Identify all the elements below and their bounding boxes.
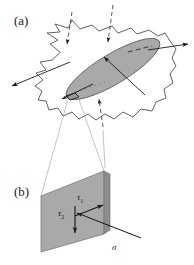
- sigma-label: σ: [112, 242, 117, 252]
- cone-line-inner: [103, 130, 105, 168]
- panel-b: (b) τ1 τ2: [14, 171, 141, 252]
- cone-line-left: [41, 99, 68, 196]
- figure-root: (a): [0, 0, 194, 265]
- cone-line-right: [78, 97, 104, 171]
- inward-arrow-top-right: [108, 5, 113, 42]
- outward-arrow-left: [12, 62, 70, 86]
- panel-a: (a): [12, 5, 188, 127]
- inward-arrow-bottom: [99, 99, 103, 127]
- panel-b-label: (b): [14, 184, 29, 199]
- figure-canvas: (a): [0, 0, 194, 265]
- panel-a-label: (a): [14, 13, 28, 28]
